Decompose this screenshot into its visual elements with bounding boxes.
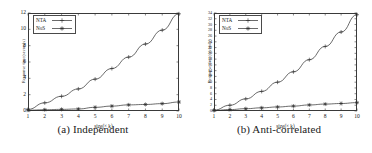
- legend-entry: NoS: [36, 25, 73, 32]
- x-tick-label: 7: [127, 114, 130, 120]
- plot-area-anti-correlated: Response time(seconds) 02468101214161820…: [186, 0, 372, 122]
- x-axis-label-b: size(× k): [276, 123, 294, 129]
- legend-label: NoS: [36, 26, 49, 31]
- legend-label: NTA: [222, 18, 235, 23]
- legend-label: NTA: [36, 18, 49, 23]
- x-tick-label: 3: [244, 114, 247, 120]
- x-tick-label: 4: [260, 114, 263, 120]
- x-tick-label: 1: [213, 114, 216, 120]
- panel-caption-a: (a) Independent: [0, 123, 186, 135]
- x-tick-label: 5: [276, 114, 279, 120]
- legend-marker-plus-icon: [237, 17, 259, 24]
- x-tick-label: 4: [77, 114, 80, 120]
- x-tick-label: 1: [27, 114, 30, 120]
- legend-entry: NTA: [36, 17, 73, 24]
- x-tick-label: 6: [292, 114, 295, 120]
- legend-label: NoS: [222, 26, 235, 31]
- figure-two-panel: Response time(seconds) 024681012 1234567…: [0, 0, 372, 153]
- x-tick-label: 8: [144, 114, 147, 120]
- x-tick-label: 2: [228, 114, 231, 120]
- panel-independent: Response time(seconds) 024681012 1234567…: [0, 0, 186, 153]
- x-tick-label: 8: [324, 114, 327, 120]
- plot-area-independent: Response time(seconds) 024681012 1234567…: [0, 0, 186, 122]
- plot-canvas-a: [0, 0, 186, 122]
- plot-canvas-b: [186, 0, 372, 122]
- legend-marker-star-icon: [237, 25, 259, 32]
- legend-b: NTANoS: [219, 15, 262, 34]
- legend-entry: NTA: [222, 17, 259, 24]
- legend-a: NTANoS: [33, 15, 76, 34]
- x-tick-label: 10: [354, 114, 360, 120]
- x-tick-label: 10: [176, 114, 182, 120]
- panel-anti-correlated: Response time(seconds) 02468101214161820…: [186, 0, 372, 153]
- x-axis-label-a: size(× k): [94, 123, 112, 129]
- x-tick-label: 6: [110, 114, 113, 120]
- x-tick-label: 9: [161, 114, 164, 120]
- x-tick-label: 2: [43, 114, 46, 120]
- x-tick-label: 3: [60, 114, 63, 120]
- legend-marker-plus-icon: [51, 17, 73, 24]
- legend-entry: NoS: [222, 25, 259, 32]
- legend-marker-star-icon: [51, 25, 73, 32]
- x-tick-label: 9: [340, 114, 343, 120]
- x-tick-label: 7: [308, 114, 311, 120]
- x-tick-label: 5: [94, 114, 97, 120]
